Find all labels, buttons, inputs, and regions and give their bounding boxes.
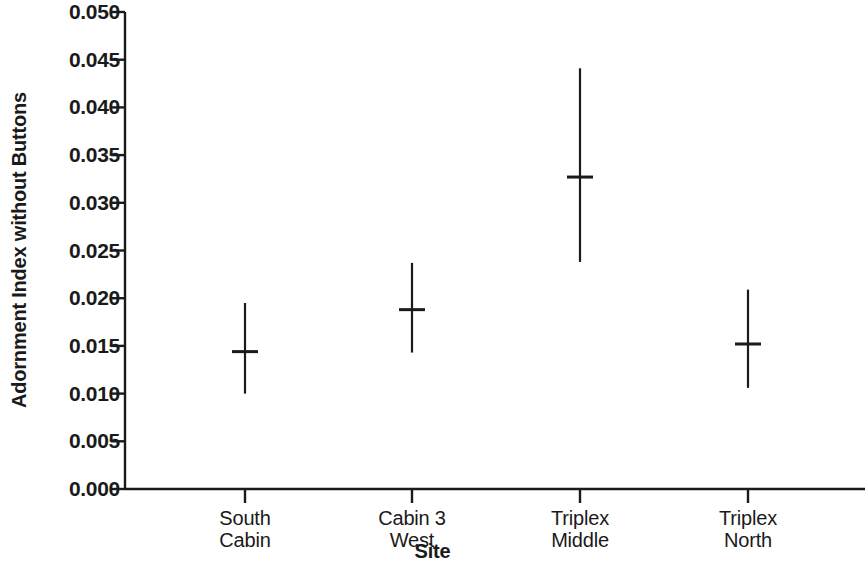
x-axis-tick-label-line: Cabin 3	[378, 507, 446, 529]
x-axis-tick-label-line: Triplex	[551, 507, 609, 529]
x-axis-title: Site	[0, 540, 865, 563]
x-axis-tick-label-line: South	[219, 507, 270, 529]
x-axis-tick-label-line: Triplex	[719, 507, 777, 529]
chart-figure: Adornment Index without Buttons 0.0000.0…	[0, 0, 865, 566]
plot-area	[0, 0, 865, 566]
